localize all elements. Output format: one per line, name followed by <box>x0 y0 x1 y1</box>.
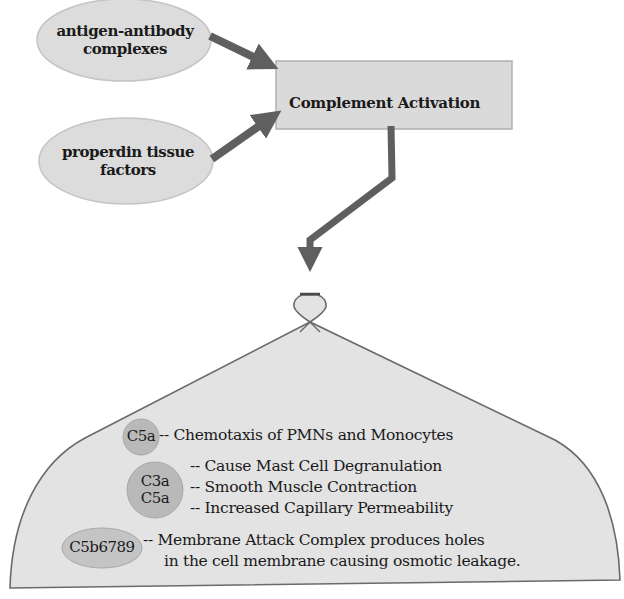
label-complement-activation: Complement Activation <box>289 94 480 112</box>
badge-line: C5a <box>133 490 177 507</box>
effect-mac: -- Membrane Attack Complex produces hole… <box>143 530 520 572</box>
label-line: factors <box>46 161 210 179</box>
effect-chemotaxis: -- Chemotaxis of PMNs and Monocytes <box>159 425 453 446</box>
arrow-properdin-to-activation <box>212 117 272 159</box>
badge-c5a: C5a <box>123 428 159 445</box>
label-properdin: properdin tissue factors <box>46 143 210 179</box>
dome-top-lens <box>294 295 326 322</box>
label-line: complexes <box>44 40 206 58</box>
label-line: antigen-antibody <box>44 22 206 40</box>
arrow-antigen-to-activation <box>210 36 268 64</box>
effect-smooth-muscle: -- Smooth Muscle Contraction <box>190 477 453 498</box>
effect-degranulation: -- Cause Mast Cell Degranulation <box>190 456 453 477</box>
label-antigen-antibody: antigen-antibody complexes <box>44 22 206 58</box>
badge-c5b6789: C5b6789 <box>62 539 142 556</box>
effect-mac-line-1: -- Membrane Attack Complex produces hole… <box>143 530 520 551</box>
badge-c3a-c5a: C3a C5a <box>133 473 177 507</box>
effect-mac-line-2: in the cell membrane causing osmotic lea… <box>143 551 520 572</box>
badge-line: C3a <box>133 473 177 490</box>
arrow-activation-to-effects <box>310 126 392 262</box>
effect-list-c3a-c5a: -- Cause Mast Cell Degranulation -- Smoo… <box>190 456 453 519</box>
label-line: properdin tissue <box>46 143 210 161</box>
effect-capillary-permeability: -- Increased Capillary Permeability <box>190 498 453 519</box>
